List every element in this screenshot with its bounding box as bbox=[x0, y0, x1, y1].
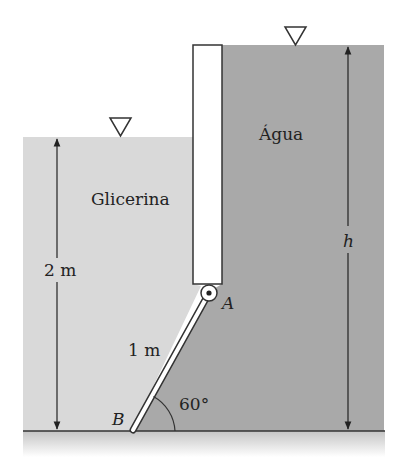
point-label-b: B bbox=[111, 409, 125, 429]
glycerin-label: Glicerina bbox=[91, 189, 170, 209]
hinge-pin bbox=[206, 290, 211, 295]
free-surface-glycerin-icon bbox=[110, 118, 131, 136]
left-depth-label: 2 m bbox=[44, 260, 76, 280]
ground bbox=[23, 431, 385, 457]
gate-diagram: Glicerina Água 2 m h 1 m 60° A B bbox=[0, 0, 404, 462]
gate-angle-label: 60° bbox=[179, 394, 209, 414]
right-depth-label: h bbox=[343, 231, 354, 251]
gate-length-label: 1 m bbox=[128, 340, 160, 360]
vertical-wall bbox=[193, 45, 222, 284]
free-surface-water-icon bbox=[285, 27, 306, 45]
water-label: Água bbox=[258, 124, 303, 144]
hinge-label-a: A bbox=[220, 293, 234, 313]
